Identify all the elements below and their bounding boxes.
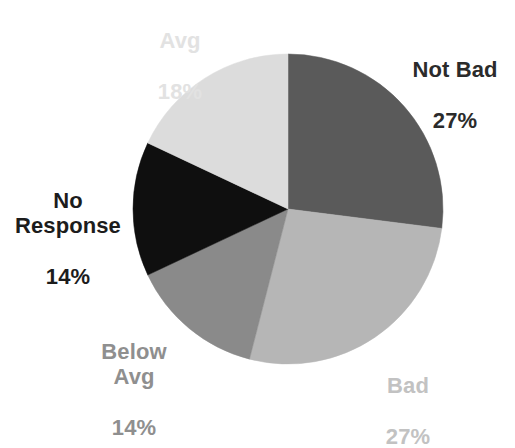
- pie-label-below-avg: Below Avg 14%: [76, 313, 192, 448]
- pie-label-avg-name: Avg: [128, 28, 232, 54]
- pie-label-bad-name: Bad: [360, 373, 456, 399]
- pie-label-bad: Bad 27%: [360, 347, 456, 448]
- pie-label-avg: Avg 18%: [128, 2, 232, 130]
- pie-label-bad-percent: 27%: [360, 424, 456, 448]
- pie-label-avg-percent: 18%: [128, 79, 232, 105]
- pie-label-no-response-name: No Response: [2, 188, 134, 239]
- pie-label-below-avg-name: Below Avg: [76, 339, 192, 390]
- pie-label-not-bad: Not Bad 27%: [396, 31, 514, 159]
- pie-label-not-bad-name: Not Bad: [396, 57, 514, 83]
- pie-label-no-response-percent: 14%: [2, 264, 134, 290]
- pie-label-no-response: No Response 14%: [2, 162, 134, 315]
- pie-label-not-bad-percent: 27%: [396, 108, 514, 134]
- pie-label-below-avg-percent: 14%: [76, 415, 192, 441]
